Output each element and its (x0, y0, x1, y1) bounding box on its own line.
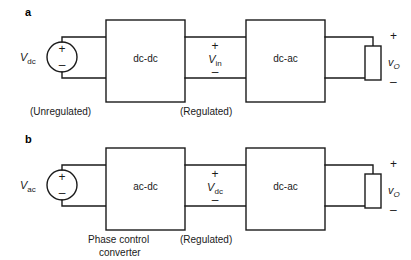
panel-b-vdc-plus: + (211, 167, 218, 181)
panel-a-load-resistor (365, 46, 381, 80)
panel-b-wire-top-left (62, 165, 106, 170)
panel-a-wire-top-right (325, 37, 373, 46)
panel-b-caption-converter-line1: Phase control (88, 234, 149, 245)
panel-a-output-plus: + (390, 29, 397, 43)
panel-b-output-minus: – (390, 203, 397, 217)
panel-b-output-plus: + (390, 157, 397, 171)
panel-b-vdc-minus: – (212, 193, 219, 207)
panel-a-vin-minus: – (212, 65, 219, 79)
panel-a-wire-top-left (62, 37, 106, 42)
panel-a-source-plus: + (58, 42, 65, 56)
panel-b-output-label: vO (388, 184, 400, 199)
panel-a-block-dc-ac-label: dc-ac (273, 53, 297, 64)
panel-a-vin-plus: + (211, 39, 218, 53)
panel-b-wire-bottom-left (62, 200, 106, 206)
panel-b-letter: b (25, 133, 32, 145)
panel-a-caption-regulated: (Regulated) (180, 106, 232, 117)
panel-b-block-dc-ac-label: dc-ac (273, 181, 297, 192)
figure-container: a + – Vdc dc-dc + Vin – dc-ac (0, 0, 411, 260)
panel-a-source-label: Vdc (20, 51, 36, 66)
panel-a-wire-bottom-left (62, 72, 106, 78)
panel-a-output-label: vO (388, 56, 400, 71)
panel-b-wire-top-right (325, 165, 373, 174)
panel-b: b + – Vac ac-dc + Vdc – dc-ac (20, 133, 400, 258)
panel-a: a + – Vdc dc-dc + Vin – dc-ac (20, 6, 400, 117)
panel-b-source-minus: – (59, 186, 66, 200)
panel-a-letter: a (25, 6, 32, 18)
panel-b-source-plus: + (58, 170, 65, 184)
panel-a-caption-unregulated: (Unregulated) (30, 106, 91, 117)
panel-b-source-label: Vac (20, 179, 36, 194)
panel-a-output-minus: – (390, 75, 397, 89)
panel-b-caption-converter-line2: converter (99, 247, 141, 258)
panel-b-block-ac-dc-label: ac-dc (133, 181, 157, 192)
panel-a-source-minus: – (59, 58, 66, 72)
panel-b-load-resistor (365, 174, 381, 208)
panel-a-block-dc-dc-label: dc-dc (133, 53, 157, 64)
panel-b-caption-regulated: (Regulated) (180, 234, 232, 245)
block-diagram-svg: a + – Vdc dc-dc + Vin – dc-ac (0, 0, 411, 260)
